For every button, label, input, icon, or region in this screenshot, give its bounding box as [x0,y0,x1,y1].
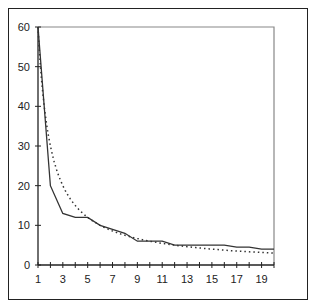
y-tick-label: 30 [18,140,30,152]
y-tick-label: 50 [18,61,30,73]
series-observed-line [38,27,274,249]
x-tick-label: 13 [181,273,193,285]
axes [38,27,274,265]
x-tick-label: 17 [231,273,243,285]
x-tick-label: 3 [60,273,66,285]
y-tick-label: 60 [18,21,30,33]
x-tick-label: 9 [134,273,140,285]
plot-area [38,27,274,265]
y-tick-label: 20 [18,180,30,192]
x-tick-label: 1 [35,273,41,285]
x-tick-label: 7 [109,273,115,285]
y-tick-label: 0 [24,259,30,271]
series-fitted-line [38,27,274,253]
x-tick-label: 5 [85,273,91,285]
series-lines [38,27,274,253]
x-tick-label: 19 [255,273,267,285]
y-tick-label: 40 [18,100,30,112]
line-chart: 0102030405060 135791113151719 [0,0,311,308]
y-tick-label: 10 [18,219,30,231]
x-tick-label: 11 [156,273,167,285]
x-tick-label: 15 [206,273,218,285]
